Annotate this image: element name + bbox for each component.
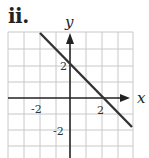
x-axis (8, 94, 130, 102)
x-axis-label: x (137, 89, 146, 107)
y-axis (66, 33, 74, 158)
y-axis-arrow-icon (66, 33, 74, 44)
x-tick-2: 2 (97, 104, 104, 117)
y-tick-2: 2 (60, 60, 67, 73)
coordinate-plot: x y -2 2 2 -2 (0, 0, 149, 158)
x-axis-arrow-icon (120, 94, 130, 102)
y-tick-neg2: -2 (53, 125, 64, 138)
x-tick-neg2: -2 (31, 103, 42, 116)
y-axis-label: y (64, 13, 74, 31)
